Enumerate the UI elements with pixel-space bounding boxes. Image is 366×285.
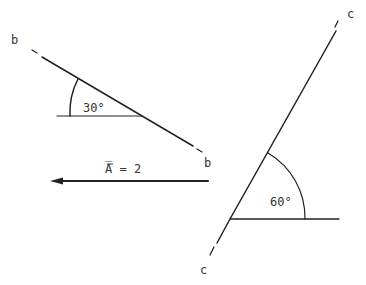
diagram: b b 30° A̅ = 2 c c 60°: [0, 0, 366, 285]
line-b: [42, 57, 193, 146]
label-angle-60: 60°: [270, 196, 292, 208]
line-c-dash-bottom: [210, 247, 214, 255]
line-c-dash-top: [335, 21, 338, 27]
label-c-bottom: c: [200, 264, 207, 276]
label-b-top: b: [11, 34, 18, 46]
angle-arc-60: [268, 153, 305, 219]
line-b-dash-top: [32, 50, 37, 53]
label-b-bottom: b: [204, 157, 211, 169]
label-vector-a: A̅ = 2: [105, 163, 141, 175]
line-c-lower: [217, 219, 230, 243]
line-c: [230, 31, 336, 219]
label-c-top: c: [347, 8, 354, 20]
line-b-dash-bottom: [197, 149, 202, 152]
label-angle-30: 30°: [83, 102, 105, 114]
vector-arrowhead-icon: [50, 178, 63, 185]
angle-arc-30: [70, 79, 78, 116]
diagram-lines: [0, 0, 366, 285]
